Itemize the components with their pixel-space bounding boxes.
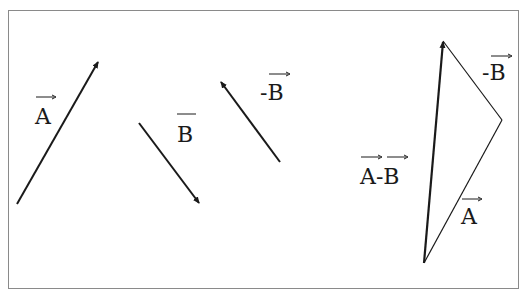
svg-text:-B: -B xyxy=(482,60,506,85)
vector-a-label: A xyxy=(34,95,56,129)
triangle-a-side xyxy=(424,120,502,263)
triangle-neg-b-label: -B xyxy=(482,54,512,85)
resultant-a-minus-b-arrow xyxy=(424,42,443,263)
vector-diagram: A B -B -B A A-B xyxy=(0,0,529,299)
triangle-a-label: A xyxy=(460,197,482,229)
vector-a-arrow xyxy=(17,62,98,204)
vector-neg-b-label: -B xyxy=(260,72,290,105)
resultant-a-minus-b-label: A-B xyxy=(359,155,408,189)
svg-text:A: A xyxy=(34,104,52,129)
svg-text:A-B: A-B xyxy=(359,164,400,189)
vector-b-label: B xyxy=(177,114,196,147)
svg-text:A: A xyxy=(460,204,478,229)
svg-text:B: B xyxy=(177,122,193,147)
svg-text:-B: -B xyxy=(260,80,284,105)
